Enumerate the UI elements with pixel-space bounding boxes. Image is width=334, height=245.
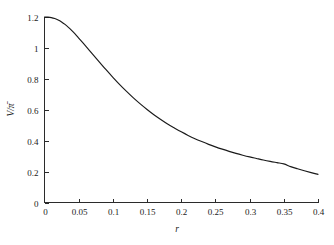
x-tick-label: 0.2 <box>176 207 187 217</box>
x-tick-label: 0.3 <box>245 207 257 217</box>
y-axis-title: V/π̄ <box>6 100 16 116</box>
y-tick-label: 1.2 <box>27 13 38 23</box>
y-tick-label: 0.6 <box>27 106 39 116</box>
x-axis-tick-labels: 00.050.10.150.20.250.30.350.4 <box>43 207 324 217</box>
x-tick-label: 0 <box>43 207 48 217</box>
line-chart-canvas: 00.20.40.60.811.2 00.050.10.150.20.250.3… <box>0 0 334 245</box>
chart-figure: 00.20.40.60.811.2 00.050.10.150.20.250.3… <box>0 0 334 245</box>
x-tick-label: 0.35 <box>277 207 293 217</box>
x-axis-tick-marks <box>80 199 319 203</box>
x-tick-label: 0.1 <box>108 207 119 217</box>
x-tick-label: 0.4 <box>313 207 325 217</box>
y-axis-tick-labels: 00.20.40.60.811.2 <box>27 13 39 209</box>
x-tick-label: 0.05 <box>72 207 88 217</box>
x-tick-label: 0.25 <box>208 207 224 217</box>
x-tick-label: 0.15 <box>140 207 156 217</box>
x-axis-title: r <box>175 224 179 234</box>
data-curve <box>45 17 319 174</box>
y-tick-label: 1 <box>34 44 39 54</box>
y-tick-label: 0.2 <box>27 168 38 178</box>
y-axis-tick-marks <box>45 18 49 204</box>
y-tick-label: 0 <box>34 199 39 209</box>
y-tick-label: 0.8 <box>27 75 39 85</box>
y-tick-label: 0.4 <box>27 137 39 147</box>
